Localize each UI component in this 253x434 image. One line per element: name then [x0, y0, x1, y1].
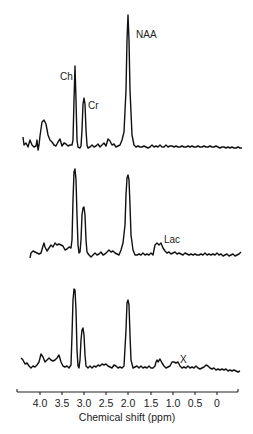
- tick-0: 0: [214, 397, 220, 409]
- spectrum-top: [23, 15, 242, 150]
- label-ch: Ch: [60, 71, 73, 82]
- x-axis-label: Chemical shift (ppm): [79, 411, 175, 423]
- tick-2.5: 2.5: [99, 397, 114, 409]
- tick-2.0: 2.0: [121, 397, 136, 409]
- spectrum-bottom: [21, 289, 240, 372]
- tick-1.0: 1.0: [166, 397, 181, 409]
- tick-1.5: 1.5: [144, 397, 159, 409]
- x-axis: 4.0 3.5 3.0 2.5 2.0 1.5 1.0 0.5 0 Chemic…: [17, 389, 238, 423]
- label-cr: Cr: [88, 100, 99, 111]
- tick-0.5: 0.5: [188, 397, 203, 409]
- spectra-figure: NAA Ch Cr Lac X 4.0 3.5 3.0 2.5 2.0 1.5 …: [0, 0, 253, 434]
- tick-3.0: 3.0: [77, 397, 92, 409]
- spectrum-middle: [30, 169, 241, 258]
- label-naa: NAA: [136, 29, 157, 40]
- label-lac: Lac: [164, 234, 180, 245]
- tick-4.0: 4.0: [33, 397, 48, 409]
- tick-3.5: 3.5: [55, 397, 70, 409]
- label-x: X: [180, 354, 187, 365]
